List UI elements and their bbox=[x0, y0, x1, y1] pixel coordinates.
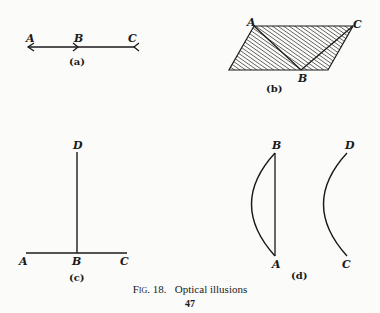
figure-b-parallelogram: A C B (b) bbox=[229, 16, 362, 94]
point-b-label: B bbox=[271, 139, 281, 152]
point-b-label: B bbox=[71, 255, 81, 268]
point-a-label: A bbox=[271, 258, 281, 271]
point-a-label: A bbox=[25, 32, 35, 45]
point-a-label: A bbox=[246, 16, 256, 29]
subfigure-b-label: (b) bbox=[266, 83, 282, 94]
point-c-label: C bbox=[353, 18, 362, 31]
point-c-label: C bbox=[128, 32, 137, 45]
point-d-label: D bbox=[344, 139, 355, 152]
point-c-label: C bbox=[120, 255, 129, 268]
point-d-label: D bbox=[72, 139, 83, 152]
point-b-label: B bbox=[73, 32, 83, 45]
point-c-label: C bbox=[342, 258, 351, 271]
figure-canvas: A B C (a) A C B (b) D A B C (c) B A D C … bbox=[0, 0, 380, 313]
point-a-label: A bbox=[18, 255, 28, 268]
page-number: 47 bbox=[0, 298, 380, 309]
figure-number: Fig. 18. bbox=[133, 283, 167, 295]
figure-c-inverted-t: D A B C (c) bbox=[18, 139, 129, 283]
figure-a-muller-lyer: A B C (a) bbox=[25, 32, 139, 67]
subfigure-d-label: (d) bbox=[291, 270, 307, 281]
figure-title: Optical illusions bbox=[175, 283, 247, 295]
point-b-label: B bbox=[297, 72, 307, 85]
subfigure-a-label: (a) bbox=[69, 56, 85, 67]
subfigure-c-label: (c) bbox=[69, 272, 85, 283]
figure-d-arcs: B A D C (d) bbox=[252, 139, 356, 281]
figure-caption: Fig. 18. Optical illusions bbox=[0, 283, 380, 295]
